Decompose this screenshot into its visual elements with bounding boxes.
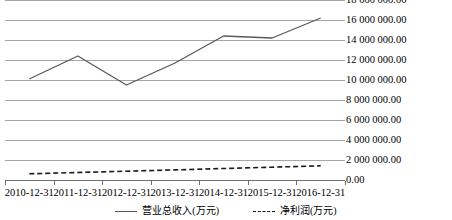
x-axis-tick-label: 2014-12-31: [199, 186, 248, 199]
x-axis-tick: [151, 181, 152, 185]
legend: 营业总收入(万元)净利润(万元): [0, 205, 452, 220]
x-axis-tick-label: 2010-12-31: [5, 186, 54, 199]
x-axis-tick: [199, 181, 200, 185]
x-axis-tick: [296, 181, 297, 185]
series-line: [29, 18, 320, 85]
y-axis-tick-label: 12 000 000.00: [346, 54, 406, 65]
legend-swatch-icon: [253, 211, 275, 212]
series-line: [29, 166, 320, 174]
x-axis-tick-label: 2011-12-31: [54, 186, 103, 199]
y-axis-tick-label: 4 000 000.00: [346, 134, 401, 145]
legend-entry[interactable]: 营业总收入(万元): [115, 205, 219, 217]
y-axis-tick-label: 6 000 000.00: [346, 114, 401, 125]
y-axis-tick-label: 10 000 000.00: [346, 74, 406, 85]
y-axis-tick-label: 18 000 000.00: [346, 0, 406, 5]
line-chart: 18 000 000.0016 000 000.0014 000 000.001…: [0, 0, 452, 220]
x-axis-tick-label: 2012-12-31: [102, 186, 151, 199]
x-axis-tick: [248, 181, 249, 185]
y-axis-tick-label: 2 000 000.00: [346, 154, 401, 165]
x-axis-tick: [5, 181, 6, 185]
legend-entry[interactable]: 净利润(万元): [253, 205, 337, 217]
legend-label: 营业总收入(万元): [142, 205, 219, 217]
x-axis-tick-label: 2016-12-31: [296, 186, 345, 199]
y-axis-tick-label: 14 000 000.00: [346, 34, 406, 45]
x-axis-tick: [54, 181, 55, 185]
y-axis-tick-label: 0.00: [346, 174, 364, 185]
x-axis: 2010-12-312011-12-312012-12-312013-12-31…: [0, 186, 452, 202]
series-layer: [5, 0, 345, 180]
y-axis: 18 000 000.0016 000 000.0014 000 000.001…: [346, 0, 452, 186]
x-axis-tick: [102, 181, 103, 185]
x-axis-line: [5, 180, 345, 181]
y-axis-tick-label: 8 000 000.00: [346, 94, 401, 105]
x-axis-tick: [345, 181, 346, 185]
legend-label: 净利润(万元): [280, 205, 337, 217]
plot-area: [5, 0, 345, 180]
legend-swatch-icon: [115, 211, 137, 212]
x-axis-tick-label: 2015-12-31: [248, 186, 297, 199]
y-axis-tick-label: 16 000 000.00: [346, 14, 406, 25]
x-axis-tick-label: 2013-12-31: [151, 186, 200, 199]
